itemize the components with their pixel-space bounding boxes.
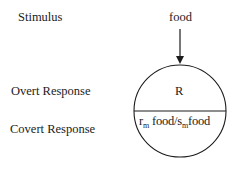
food-text-2: food [188, 114, 210, 128]
food-text-1: food/ [149, 114, 177, 128]
covert-response-value: rm food/smfood [139, 114, 210, 130]
arrow-head-icon [176, 56, 184, 64]
response-diagram [0, 0, 234, 171]
overt-response-value: R [175, 84, 183, 99]
